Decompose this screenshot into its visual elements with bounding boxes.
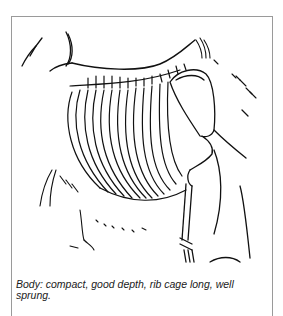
hind-strokes <box>40 170 146 250</box>
ribs <box>68 82 186 200</box>
spine <box>70 64 186 88</box>
neck-strokes <box>22 32 72 71</box>
body-outline <box>210 110 250 262</box>
back-line <box>72 40 195 69</box>
figure-caption: Body: compact, good depth, rib cage long… <box>16 279 266 301</box>
hair-strokes <box>196 38 256 98</box>
horse-ribcage-illustration <box>0 0 283 270</box>
